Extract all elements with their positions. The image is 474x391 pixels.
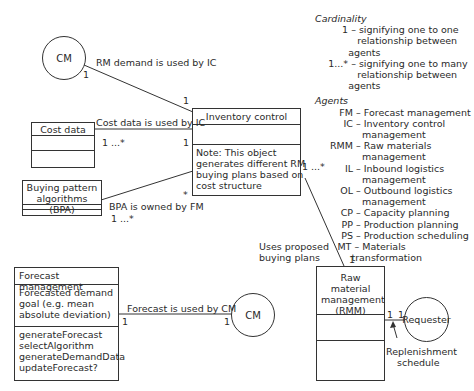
note-line-4: cost structure <box>196 180 262 191</box>
legend-cardinality-row: 1...* – signifying one to many relations… <box>315 58 474 92</box>
class-name-line: Buying pattern <box>24 182 100 193</box>
class-name: Buying pattern algorithms (BPA) <box>23 181 101 205</box>
method: generateDemandData <box>19 351 114 362</box>
legend-value: – signifying one to many relationship be… <box>348 58 474 92</box>
attribute: goal (e.g. mean <box>19 298 114 309</box>
assoc-label-forecast: Forecast is used by CM <box>127 303 236 314</box>
legend-agent-row: IL – Inbound logistics management <box>315 163 474 185</box>
attribute: absolute deviation) <box>19 309 114 320</box>
class-cost-data: Cost data <box>31 122 95 168</box>
class-attributes <box>193 125 300 145</box>
mult-bpa-b: * <box>183 189 188 200</box>
class-attributes: Forecasted demand goal (e.g. mean absolu… <box>15 285 118 327</box>
assoc-label-replenishment-1: Replenishment <box>386 346 457 357</box>
legend-agent-row: PS – Production scheduling <box>315 230 474 241</box>
actor-cm-top: CM <box>42 36 86 80</box>
class-attributes <box>32 136 94 151</box>
class-name-line: management <box>321 294 380 305</box>
actor-cm-bottom: CM <box>231 293 275 337</box>
note-line-2: generates different RM <box>196 158 305 169</box>
legend-agent-row: CP – Capacity planning <box>315 207 474 218</box>
legend-agent-row: IC – Inventory control management <box>315 118 474 140</box>
class-methods: generateForecast selectAlgorithm generat… <box>15 327 118 375</box>
class-name: Inventory control <box>193 109 300 125</box>
method: generateForecast <box>19 329 114 340</box>
assoc-label-cost-data: Cost data is used by IC <box>96 117 205 128</box>
mult-rm-demand-b: 1 <box>183 95 189 106</box>
method: updateForecast? <box>19 362 114 373</box>
legend-cardinality-title: Cardinality <box>315 13 474 24</box>
class-forecast-management: Forecast management Forecasted demand go… <box>14 267 119 381</box>
legend-agent-row: MT – Materials transformation <box>315 241 474 263</box>
method: selectAlgorithm <box>19 340 114 351</box>
legend-cardinality-row: 1 – signifying one to one relationship b… <box>315 24 474 58</box>
legend-agent-row: RMM – Raw materials management <box>315 140 474 162</box>
legend-key: 1...* <box>315 58 348 92</box>
note-line-1: Note: This object <box>196 147 276 158</box>
mult-bpa-a: 1 ...* <box>111 213 134 224</box>
actor-label: CM <box>56 53 72 64</box>
class-attributes <box>317 315 384 341</box>
attribute: Forecasted demand <box>19 287 114 298</box>
mult-replenishment-a: 1 <box>387 309 393 320</box>
actor-label: CM <box>245 310 261 321</box>
mult-cost-data-b: 1 <box>183 137 189 148</box>
legend-agent-row: PP – Production planning <box>315 219 474 230</box>
legend-agents-title: Agents <box>315 95 474 106</box>
legend-agent-row: FM – Forecast management <box>315 107 474 118</box>
assoc-label-rm-demand: RM demand is used by IC <box>96 57 216 68</box>
class-name-line: Raw material <box>321 272 380 294</box>
class-name: Raw material management (RMM) <box>317 267 384 315</box>
legend-agent-row: OL – Outbound logistics management <box>315 185 474 207</box>
legend: Cardinality 1 – signifying one to one re… <box>315 13 474 263</box>
note-line-3: buying plans based on <box>196 169 303 180</box>
assoc-label-replenishment-2: schedule <box>397 357 440 368</box>
class-bpa: Buying pattern algorithms (BPA) <box>22 180 102 216</box>
actor-label: Requester <box>402 314 450 325</box>
legend-value: – signifying one to one relationship bet… <box>348 24 474 58</box>
actor-requester: Requester <box>404 297 449 342</box>
mult-replenishment-b: 1 <box>398 309 404 320</box>
mult-rm-demand-a: 1 <box>83 69 89 80</box>
class-name: Cost data <box>32 123 94 136</box>
mult-forecast-a: 1 <box>122 316 128 327</box>
class-methods <box>317 341 384 345</box>
legend-key: 1 <box>315 24 348 58</box>
assoc-label-buying-plans-2: buying plans <box>259 252 320 263</box>
assoc-label-bpa: BPA is owned by FM <box>109 201 204 212</box>
mult-cost-data-a: 1 ...* <box>102 137 125 148</box>
class-methods <box>32 151 94 167</box>
class-name: Forecast management <box>15 268 118 285</box>
class-rmm: Raw material management (RMM) <box>316 266 385 381</box>
mult-forecast-b: 1 <box>224 316 230 327</box>
